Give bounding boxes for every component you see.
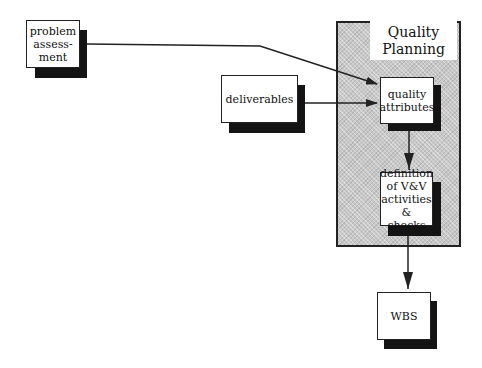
node-box: deliverables (221, 75, 298, 123)
node-box: WBS (377, 292, 431, 340)
node-box: quality attributes (380, 77, 434, 124)
node-box: definition of V&V activities & checks (380, 172, 433, 226)
node-label-line: assess- (33, 38, 72, 51)
node-label-line: ment (39, 51, 67, 64)
node-label-line: of V&V (387, 180, 427, 193)
node-label: deliverables (226, 93, 294, 106)
node-label-line: definition (380, 167, 433, 180)
node-label: WBS (391, 310, 418, 323)
node-label-line: & checks (381, 206, 432, 232)
node-label-line: quality (388, 88, 426, 101)
node-label-line: activities (381, 193, 431, 206)
node-label-line: attributes (380, 101, 435, 114)
node-box: problem assess- ment (26, 20, 80, 68)
node-label-line: problem (30, 25, 76, 38)
